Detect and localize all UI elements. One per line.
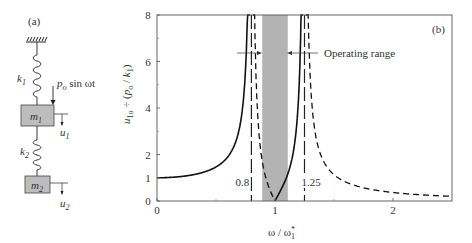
panel-b-label: (b) <box>432 23 445 36</box>
u2-label: u2 <box>60 197 70 212</box>
spring-k1-icon <box>33 42 41 105</box>
solid-response-curve <box>157 15 250 178</box>
k1-label: k1 <box>17 72 26 87</box>
u1-label: u1 <box>60 126 70 141</box>
operating-range-band <box>262 15 288 201</box>
x-axis-label: ω / ω*1 <box>268 225 295 241</box>
figure: (a) k1 m1 po sin ωt u1 k2 m2 <box>0 0 472 243</box>
panel-a-diagram: (a) k1 m1 po sin ωt u1 k2 m2 <box>17 15 95 212</box>
x-tick-label: 1 <box>272 204 278 216</box>
y-axis-label: u1o ÷ (po / k1) <box>120 64 135 124</box>
panel-a-label: (a) <box>28 15 41 28</box>
spring-k2-icon <box>33 126 41 176</box>
x-tick-label: 0 <box>154 204 160 216</box>
y-tick-label: 0 <box>145 195 151 207</box>
y-tick-label: 8 <box>145 9 151 21</box>
force-arrowhead-icon <box>51 100 56 105</box>
y-tick-label: 1 <box>145 172 151 184</box>
force-label: po sin ωt <box>56 77 95 92</box>
y-tick-label: 6 <box>145 56 151 68</box>
operating-range-annotation: Operating range <box>237 47 395 59</box>
fixed-support-icon <box>26 37 47 42</box>
y-tick-label: 4 <box>145 102 151 114</box>
asymptote-label: 1.25 <box>302 176 322 188</box>
dashed-response-curve <box>306 15 452 196</box>
x-tick-label: 2 <box>390 204 396 216</box>
k2-label: k2 <box>20 145 29 160</box>
panel-b-chart: 0.81.25 012468 012 Operating range (b) ω… <box>120 9 452 241</box>
asymptote-label: 0.8 <box>235 176 249 188</box>
u2-arrowhead-icon <box>61 191 64 195</box>
operating-range-label: Operating range <box>324 47 395 59</box>
y-tick-label: 2 <box>145 149 151 161</box>
